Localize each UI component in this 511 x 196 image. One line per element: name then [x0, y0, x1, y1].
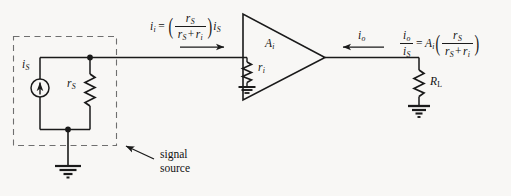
- annotation-pointer-arrow: [126, 146, 154, 159]
- formula-output-lhs-fraction: io iS: [400, 29, 413, 60]
- signal-source-line-1: signal: [160, 148, 187, 160]
- amplifier-gain-label: Ai: [265, 38, 275, 51]
- formula-output-fraction: rS rS+ri: [442, 29, 473, 60]
- io-label: io: [358, 30, 365, 43]
- circuit-diagram-figure: ii=( rS rS+ri )iS io iS =Ai( rS rS+ri ) …: [0, 0, 511, 196]
- left-paren-icon: (: [436, 33, 441, 55]
- rs-label: rS: [67, 78, 76, 91]
- rl-resistor: [414, 70, 424, 97]
- right-paren-icon: ): [207, 16, 212, 38]
- source-ground: [55, 166, 81, 178]
- output-current-formula: io iS =Ai( rS rS+ri ): [400, 29, 480, 60]
- formula-output-equals: =: [413, 37, 425, 49]
- ri-label: ri: [258, 62, 265, 75]
- left-paren-icon: (: [169, 16, 174, 38]
- ri-resistor: [243, 62, 252, 83]
- ri-ground: [239, 87, 256, 93]
- is-label: iS: [22, 59, 29, 72]
- signal-source-line-2: source: [160, 162, 190, 174]
- load-ground: [408, 106, 430, 117]
- formula-input-equals: =: [156, 20, 168, 32]
- input-current-formula: ii=( rS rS+ri )iS: [150, 12, 221, 43]
- rs-resistor: [85, 74, 95, 106]
- formula-output-gain: A: [425, 37, 432, 49]
- signal-source-annotation: signal source: [160, 148, 190, 175]
- rl-label: RL: [430, 76, 442, 89]
- right-paren-icon: ): [474, 33, 479, 55]
- formula-input-fraction: rS rS+ri: [175, 12, 206, 43]
